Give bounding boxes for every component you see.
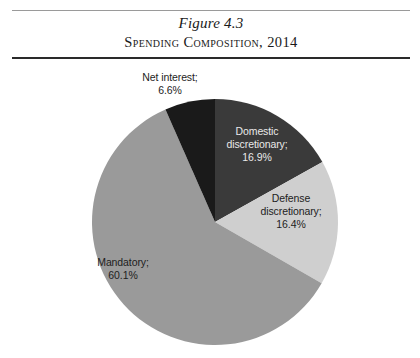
caption-rule-bottom [12, 57, 410, 59]
pie-label-net-interest: Net interest; 6.6% [100, 71, 240, 97]
pie-label-domestic-discretionary: Domestic discretionary; 16.9% [211, 125, 303, 164]
pie-label-defense-discretionary: Defense discretionary; 16.4% [243, 192, 339, 231]
figure-container: Figure 4.3 Spending Composition, 2014 Ne… [0, 0, 420, 358]
pie-label-mandatory: Mandatory; 60.1% [71, 256, 175, 282]
figure-caption: Figure 4.3 Spending Composition, 2014 [12, 14, 410, 52]
figure-title: Spending Composition, 2014 [12, 33, 410, 52]
caption-rule-top [12, 10, 410, 11]
pie-chart-svg [0, 62, 420, 358]
pie-chart: Net interest; 6.6% Domestic discretionar… [0, 62, 420, 358]
figure-number: Figure 4.3 [12, 14, 410, 33]
